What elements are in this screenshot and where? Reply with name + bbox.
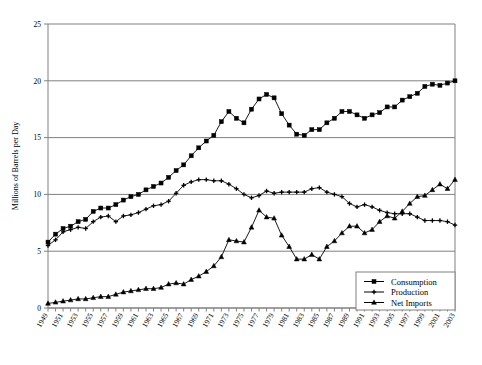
data-point-2-54: [453, 177, 458, 181]
x-tick-label-1993: 1993: [366, 311, 381, 329]
data-point-2-24: [226, 237, 231, 241]
data-point-0-51: [430, 82, 434, 86]
data-point-1-35: [310, 187, 314, 191]
legend-label-net-imports: Net Imports: [391, 298, 432, 308]
data-point-1-20: [197, 177, 201, 181]
data-point-0-24: [227, 109, 231, 113]
data-point-0-4: [76, 220, 80, 224]
data-point-2-21: [204, 269, 209, 273]
x-tick-label-1997: 1997: [396, 311, 411, 329]
data-point-1-44: [377, 208, 381, 212]
data-point-2-23: [219, 254, 224, 258]
x-tick-label-1999: 1999: [411, 311, 426, 329]
data-point-2-52: [438, 182, 443, 186]
x-tick-label-1957: 1957: [95, 311, 110, 329]
data-point-0-33: [295, 132, 299, 136]
legend-marker-0: [372, 280, 376, 284]
series-line-1: [48, 180, 455, 246]
data-point-1-23: [219, 179, 223, 183]
data-point-0-34: [302, 133, 306, 137]
x-tick-label-1973: 1973: [215, 311, 230, 329]
x-tick-label-1955: 1955: [80, 311, 95, 329]
data-point-1-22: [212, 179, 216, 183]
data-point-1-42: [362, 202, 366, 206]
data-point-0-54: [453, 79, 457, 83]
data-point-1-36: [317, 185, 321, 189]
data-point-2-17: [174, 280, 179, 284]
x-tick-label-1991: 1991: [351, 311, 366, 329]
data-point-0-40: [347, 109, 351, 113]
data-point-2-35: [309, 252, 314, 256]
data-point-1-4: [76, 225, 80, 229]
data-point-1-15: [159, 202, 163, 206]
data-point-0-8: [106, 206, 110, 210]
data-point-0-13: [144, 188, 148, 192]
x-tick-label-1985: 1985: [306, 311, 321, 329]
data-point-1-54: [453, 223, 457, 227]
y-tick-label-0: 0: [37, 304, 41, 313]
x-tick-label-1977: 1977: [245, 311, 260, 329]
data-point-0-14: [152, 184, 156, 188]
x-tick-label-1953: 1953: [65, 311, 80, 329]
data-point-1-48: [408, 212, 412, 216]
data-point-1-11: [129, 213, 133, 217]
x-tick-label-1951: 1951: [50, 311, 65, 329]
x-tick-label-1969: 1969: [185, 311, 200, 329]
x-tick-label-1963: 1963: [140, 311, 155, 329]
y-tick-label-20: 20: [34, 77, 42, 86]
data-point-0-9: [114, 203, 118, 207]
data-point-0-29: [265, 92, 269, 96]
data-point-2-27: [249, 225, 254, 229]
data-point-0-30: [272, 96, 276, 100]
data-point-0-25: [234, 116, 238, 120]
x-tick-label-1967: 1967: [170, 311, 185, 329]
data-point-1-29: [264, 189, 268, 193]
data-point-0-7: [99, 206, 103, 210]
axes: [48, 24, 455, 308]
legend: ConsumptionProductionNet Imports: [356, 272, 455, 310]
data-point-0-47: [400, 98, 404, 102]
y-ticks: 0510152025: [34, 20, 49, 313]
data-point-1-38: [332, 192, 336, 196]
data-point-0-42: [363, 116, 367, 120]
x-tick-label-2003: 2003: [441, 311, 456, 329]
x-tick-label-1987: 1987: [321, 311, 336, 329]
y-tick-label-25: 25: [34, 20, 42, 29]
x-tick-label-1949: 1949: [34, 311, 49, 329]
data-point-0-10: [121, 198, 125, 202]
data-point-0-16: [167, 175, 171, 179]
data-point-1-19: [189, 180, 193, 184]
x-tick-label-1971: 1971: [200, 311, 215, 329]
data-point-1-27: [249, 196, 253, 200]
data-point-1-50: [423, 218, 427, 222]
data-point-0-49: [415, 91, 419, 95]
data-point-0-11: [129, 195, 133, 199]
data-point-0-27: [250, 107, 254, 111]
chart-container: 0510152025194919511953195519571959196119…: [0, 0, 482, 365]
data-point-0-39: [340, 109, 344, 113]
data-point-0-1: [54, 232, 58, 236]
data-point-2-50: [422, 193, 427, 197]
data-point-2-44: [377, 219, 382, 223]
data-point-0-15: [159, 181, 163, 185]
data-point-0-43: [370, 113, 374, 117]
data-point-0-36: [317, 128, 321, 132]
x-tick-label-1979: 1979: [261, 311, 276, 329]
data-point-0-20: [197, 146, 201, 150]
x-tick-label-1983: 1983: [291, 311, 306, 329]
x-tick-label-1975: 1975: [230, 311, 245, 329]
data-point-0-44: [378, 111, 382, 115]
data-point-2-45: [385, 213, 390, 217]
data-point-1-41: [355, 205, 359, 209]
y-tick-label-5: 5: [37, 247, 41, 256]
y-tick-label-10: 10: [34, 190, 42, 199]
x-tick-label-1965: 1965: [155, 311, 170, 329]
data-point-1-14: [151, 204, 155, 208]
x-tick-label-1959: 1959: [110, 311, 125, 329]
data-point-2-31: [279, 233, 284, 237]
data-point-0-6: [91, 209, 95, 213]
series-production: [46, 177, 457, 247]
data-point-0-18: [182, 163, 186, 167]
data-point-0-31: [280, 112, 284, 116]
data-point-1-52: [438, 218, 442, 222]
